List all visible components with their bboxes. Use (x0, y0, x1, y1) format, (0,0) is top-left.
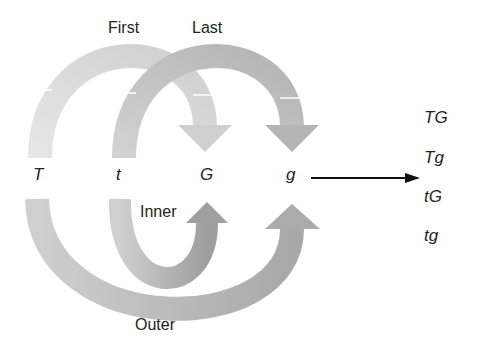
last-arc-arrow (112, 56, 319, 158)
outer-label: Outer (135, 316, 175, 334)
result-arrow (311, 173, 420, 183)
allele-G: G (200, 165, 213, 185)
result-Tg: Tg (424, 148, 444, 168)
arcs-layer (0, 0, 488, 350)
first-label: First (108, 19, 139, 37)
outer-arc-arrow (37, 199, 320, 309)
allele-T: T (33, 165, 43, 185)
result-tG: tG (424, 187, 442, 207)
inner-label: Inner (140, 203, 176, 221)
last-label: Last (192, 19, 222, 37)
result-TG: TG (424, 108, 448, 128)
result-tg: tg (424, 226, 438, 246)
allele-t: t (116, 165, 121, 185)
foil-method-diagram: First Last Inner Outer T t G g TG Tg tG … (0, 0, 488, 350)
allele-g: g (286, 165, 295, 185)
